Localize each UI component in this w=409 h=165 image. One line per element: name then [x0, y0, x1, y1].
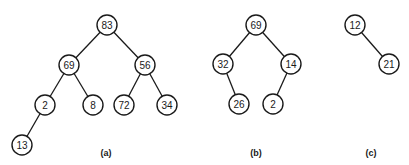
tree-a-nodes: 83695628723413: [12, 15, 177, 155]
node-label: 2: [42, 100, 48, 111]
edges-layer: [22, 25, 389, 145]
tree-a-caption: (a): [101, 148, 112, 158]
nodes-layer: 836956287234136932142621221: [12, 15, 399, 155]
node-label: 21: [383, 59, 395, 70]
node-label: 34: [161, 100, 173, 111]
node-label: 83: [101, 20, 113, 31]
tree-node: 69: [246, 15, 266, 35]
tree-c-caption: (c): [366, 148, 377, 158]
tree-node: 2: [35, 95, 55, 115]
node-label: 8: [90, 100, 96, 111]
tree-node: 72: [114, 95, 134, 115]
tree-node: 2: [263, 94, 283, 114]
tree-node: 21: [379, 54, 399, 74]
tree-node: 56: [135, 55, 155, 75]
node-label: 26: [233, 99, 245, 110]
node-label: 56: [139, 60, 151, 71]
binary-trees-diagram: 836956287234136932142621221 (a)(b)(c): [0, 0, 409, 165]
tree-b-caption: (b): [250, 148, 262, 158]
tree-node: 14: [281, 54, 301, 74]
tree-node: 8: [83, 95, 103, 115]
tree-node: 13: [12, 135, 32, 155]
node-label: 69: [250, 20, 262, 31]
captions-layer: (a)(b)(c): [101, 148, 377, 158]
node-label: 12: [349, 20, 361, 31]
node-label: 32: [217, 59, 229, 70]
node-label: 69: [63, 60, 75, 71]
node-label: 13: [16, 140, 28, 151]
tree-node: 83: [97, 15, 117, 35]
tree-node: 34: [157, 95, 177, 115]
node-label: 2: [270, 99, 276, 110]
node-label: 14: [285, 59, 297, 70]
tree-a-edges: [22, 25, 167, 145]
tree-node: 26: [229, 94, 249, 114]
tree-node: 69: [59, 55, 79, 75]
node-label: 72: [118, 100, 130, 111]
tree-node: 32: [213, 54, 233, 74]
tree-node: 12: [345, 15, 365, 35]
tree-b-nodes: 693214262: [213, 15, 301, 114]
